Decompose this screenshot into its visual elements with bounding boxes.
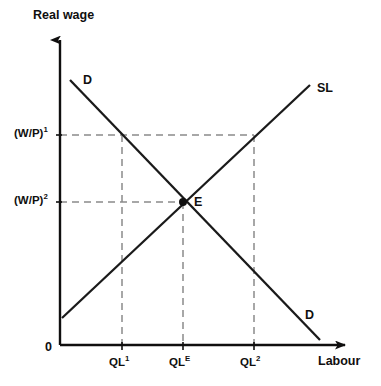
y-tick-label-wp1-sup: 1 <box>43 125 47 134</box>
x-tick-label-qle-sup: E <box>185 354 190 363</box>
x-tick-label-ql1: QL1 <box>109 357 129 369</box>
y-tick-label-wp2-text: (W/P) <box>14 194 43 206</box>
x-tick-label-qle: QLE <box>169 357 190 369</box>
equilibrium-point-marker <box>179 198 187 206</box>
y-axis-label: Real wage <box>33 9 94 22</box>
x-tick-label-qle-text: QL <box>169 356 185 368</box>
y-tick-label-wp2-sup: 2 <box>43 192 47 201</box>
demand-curve <box>70 80 320 340</box>
x-tick-label-ql1-sup: 1 <box>125 354 129 363</box>
y-tick-label-wp2: (W/P)2 <box>14 195 48 207</box>
x-tick-label-ql2-text: QL <box>240 356 256 368</box>
x-axis-label: Labour <box>318 355 360 368</box>
supply-curve-label: SL <box>317 82 333 95</box>
x-tick-label-ql1-text: QL <box>109 356 125 368</box>
x-tick-label-ql2-sup: 2 <box>256 354 260 363</box>
origin-label: 0 <box>45 341 52 354</box>
diagram-canvas: Real wage Labour 0 (W/P)1 (W/P)2 QL1 QLE… <box>0 0 381 386</box>
x-tick-label-ql2: QL2 <box>240 357 260 369</box>
y-tick-label-wp1-text: (W/P) <box>14 127 43 139</box>
demand-curve-label-top: D <box>83 74 92 87</box>
equilibrium-point-label: E <box>194 196 202 209</box>
y-tick-label-wp1: (W/P)1 <box>14 128 48 140</box>
demand-curve-label-bottom: D <box>305 309 314 322</box>
labour-market-chart <box>0 0 381 386</box>
